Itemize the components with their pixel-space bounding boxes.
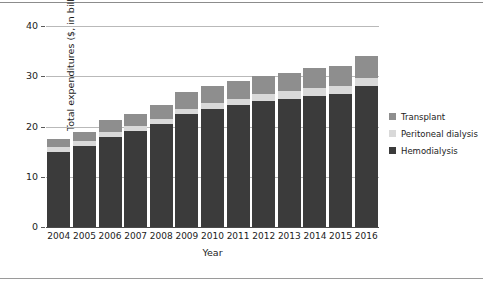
bar-segment-peritoneal-dialysis-2011[interactable]: [227, 99, 250, 106]
y-tick-label-20: 20: [4, 122, 38, 132]
legend-item-peritoneal-dialysis[interactable]: Peritoneal dialysis: [389, 125, 481, 142]
bar-group-2004[interactable]: [47, 26, 70, 227]
legend-item-transplant[interactable]: Transplant: [389, 108, 481, 125]
chart-figure: Total expenditures ($, in billions) 0102…: [0, 0, 483, 281]
y-tick-label-40: 40: [4, 21, 38, 31]
bar-group-2006[interactable]: [99, 26, 122, 227]
legend-swatch-icon-hemodialysis: [389, 147, 396, 154]
x-tick-label-2012: 2012: [251, 231, 277, 242]
bar-segment-transplant-2016[interactable]: [355, 56, 378, 79]
bar-group-2013[interactable]: [278, 26, 301, 227]
bar-segment-peritoneal-dialysis-2012[interactable]: [252, 94, 275, 101]
x-tick-label-2010: 2010: [200, 231, 226, 242]
y-tick-label-0: 0: [4, 222, 38, 232]
bar-segment-hemodialysis-2007[interactable]: [124, 131, 147, 227]
x-tick-label-2004: 2004: [46, 231, 72, 242]
bar-segment-hemodialysis-2013[interactable]: [278, 99, 301, 227]
y-tick-label-10: 10: [4, 172, 38, 182]
x-tick-label-2009: 2009: [174, 231, 200, 242]
x-tick-label-2005: 2005: [72, 231, 98, 242]
bar-segment-transplant-2012[interactable]: [252, 76, 275, 94]
bar-segment-transplant-2014[interactable]: [303, 68, 326, 88]
bar-segment-peritoneal-dialysis-2004[interactable]: [47, 147, 70, 152]
y-tick-mark-40: [41, 26, 45, 27]
bar-segment-peritoneal-dialysis-2016[interactable]: [355, 78, 378, 86]
y-tick-mark-10: [41, 177, 45, 178]
bar-segment-transplant-2005[interactable]: [73, 132, 96, 142]
bar-segment-hemodialysis-2004[interactable]: [47, 152, 70, 227]
bar-segment-peritoneal-dialysis-2007[interactable]: [124, 126, 147, 131]
bar-segment-peritoneal-dialysis-2009[interactable]: [175, 109, 198, 115]
legend-label: Hemodialysis: [401, 146, 458, 156]
bar-segment-hemodialysis-2005[interactable]: [73, 146, 96, 227]
bar-segment-hemodialysis-2014[interactable]: [303, 96, 326, 227]
legend-swatch-icon-transplant: [389, 113, 396, 120]
legend-label: Peritoneal dialysis: [401, 129, 478, 139]
bar-segment-transplant-2004[interactable]: [47, 139, 70, 147]
bar-group-2007[interactable]: [124, 26, 147, 227]
bar-segment-transplant-2011[interactable]: [227, 81, 250, 99]
legend-item-hemodialysis[interactable]: Hemodialysis: [389, 142, 481, 159]
bar-segment-peritoneal-dialysis-2005[interactable]: [73, 141, 96, 146]
bar-segment-transplant-2008[interactable]: [150, 105, 173, 119]
bar-segment-hemodialysis-2010[interactable]: [201, 109, 224, 227]
x-tick-label-2016: 2016: [353, 231, 379, 242]
x-tick-label-2014: 2014: [302, 231, 328, 242]
bar-segment-hemodialysis-2012[interactable]: [252, 101, 275, 227]
x-tick-label-2006: 2006: [97, 231, 123, 242]
y-axis-title-container: Total expenditures ($, in billions): [0, 0, 46, 227]
bar-segment-transplant-2009[interactable]: [175, 92, 198, 109]
bar-segment-transplant-2013[interactable]: [278, 73, 301, 91]
bar-segment-peritoneal-dialysis-2010[interactable]: [201, 103, 224, 109]
bar-group-2010[interactable]: [201, 26, 224, 227]
bar-series-layer: [46, 26, 379, 227]
x-tick-label-2011: 2011: [225, 231, 251, 242]
bar-group-2008[interactable]: [150, 26, 173, 227]
bar-segment-transplant-2006[interactable]: [99, 120, 122, 132]
bar-segment-peritoneal-dialysis-2013[interactable]: [278, 91, 301, 99]
bottom-divider-rule: [0, 278, 483, 279]
bar-segment-hemodialysis-2016[interactable]: [355, 86, 378, 227]
bar-segment-transplant-2007[interactable]: [124, 114, 147, 126]
bar-group-2012[interactable]: [252, 26, 275, 227]
bar-segment-hemodialysis-2008[interactable]: [150, 124, 173, 227]
chart-legend: TransplantPeritoneal dialysisHemodialysi…: [389, 108, 481, 159]
x-tick-label-2008: 2008: [148, 231, 174, 242]
y-tick-mark-20: [41, 127, 45, 128]
y-tick-label-30: 30: [4, 71, 38, 81]
bar-segment-transplant-2010[interactable]: [201, 86, 224, 103]
bar-group-2009[interactable]: [175, 26, 198, 227]
bar-segment-hemodialysis-2006[interactable]: [99, 137, 122, 227]
bar-group-2014[interactable]: [303, 26, 326, 227]
y-tick-mark-30: [41, 76, 45, 77]
y-tick-mark-0: [41, 227, 45, 228]
bar-segment-hemodialysis-2009[interactable]: [175, 114, 198, 227]
bar-group-2011[interactable]: [227, 26, 250, 227]
bar-segment-peritoneal-dialysis-2014[interactable]: [303, 88, 326, 96]
bar-segment-peritoneal-dialysis-2015[interactable]: [329, 86, 352, 94]
bar-segment-hemodialysis-2015[interactable]: [329, 94, 352, 227]
bar-segment-peritoneal-dialysis-2006[interactable]: [99, 132, 122, 137]
legend-swatch-icon-peritoneal-dialysis: [389, 130, 396, 137]
x-axis-title: Year: [46, 247, 379, 258]
x-tick-label-2013: 2013: [277, 231, 303, 242]
x-tick-label-2007: 2007: [123, 231, 149, 242]
legend-label: Transplant: [401, 112, 445, 122]
bar-group-2005[interactable]: [73, 26, 96, 227]
bar-segment-hemodialysis-2011[interactable]: [227, 105, 250, 227]
x-tick-label-2015: 2015: [328, 231, 354, 242]
x-axis-line: [46, 227, 379, 228]
bar-group-2016[interactable]: [355, 26, 378, 227]
bar-group-2015[interactable]: [329, 26, 352, 227]
bar-segment-peritoneal-dialysis-2008[interactable]: [150, 119, 173, 124]
bar-segment-transplant-2015[interactable]: [329, 66, 352, 86]
